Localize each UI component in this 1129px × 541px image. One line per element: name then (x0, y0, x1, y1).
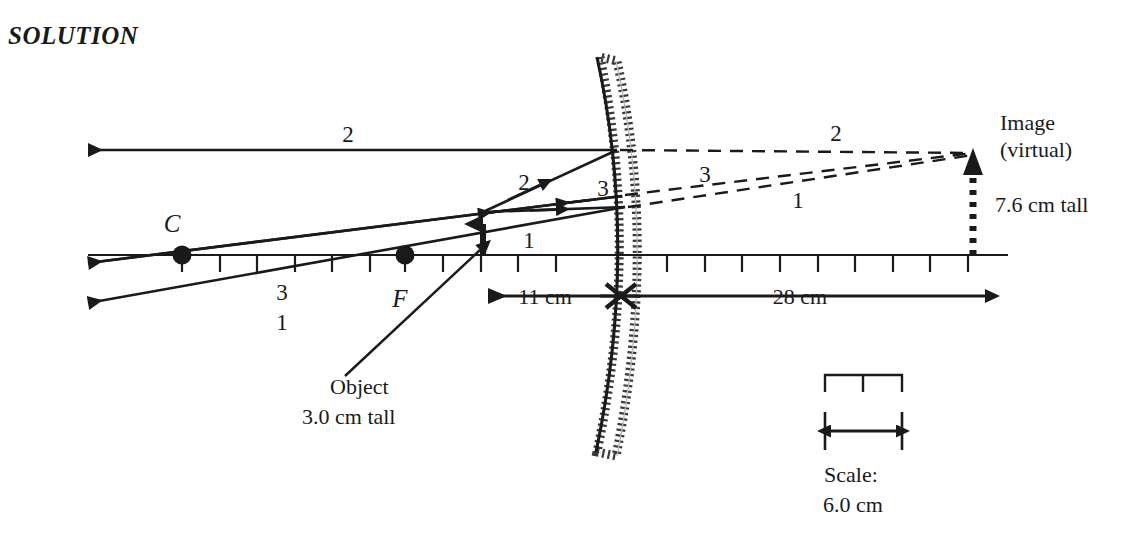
image-arrow-head (963, 148, 983, 175)
label-object-distance: 11 cm (518, 284, 572, 309)
label-ray-2-virtual: 2 (830, 121, 842, 146)
label-object: Object (330, 374, 389, 400)
object-leader-line (345, 250, 480, 376)
label-image-line1: Image (1000, 110, 1055, 136)
ray-diagram-svg: C F 2 3 1 2 3 1 2 3 1 11 cm 28 cm (0, 0, 1129, 541)
label-ray-2-incident: 2 (518, 170, 530, 195)
label-focal-point: F (391, 285, 408, 312)
principal-axis (88, 246, 1008, 273)
ray-2 (88, 150, 973, 212)
label-image-distance: 28 cm (773, 284, 827, 309)
label-object-height: 3.0 cm tall (302, 404, 395, 430)
label-image-line2: (virtual) (1000, 137, 1072, 163)
label-image-height: 7.6 cm tall (995, 192, 1088, 218)
mirror (596, 57, 637, 456)
label-scale-title: Scale: (824, 462, 878, 488)
label-ray-1-virtual: 1 (792, 188, 804, 213)
scale-bracket (825, 375, 902, 392)
scale-legend (825, 375, 902, 450)
label-ray-3-virtual: 3 (699, 162, 711, 187)
label-scale-value: 6.0 cm (823, 492, 883, 518)
object-leader-arrow (345, 250, 480, 376)
ray-1-incident-arrow (530, 210, 556, 211)
label-ray-1-incident: 1 (523, 228, 535, 253)
label-ray-1-reflected: 1 (276, 310, 288, 335)
label-ray-3-reflected: 3 (276, 280, 288, 305)
ray-2-virtual (620, 150, 973, 153)
image-arrow (963, 148, 983, 255)
label-center-of-curvature: C (164, 210, 181, 237)
diagram-canvas: SOLUTION (0, 0, 1129, 541)
label-ray-3-incident: 3 (597, 176, 609, 201)
label-ray-2-reflected: 2 (342, 122, 354, 147)
axis-ticks (182, 255, 968, 272)
center-of-curvature-dot (173, 246, 192, 265)
